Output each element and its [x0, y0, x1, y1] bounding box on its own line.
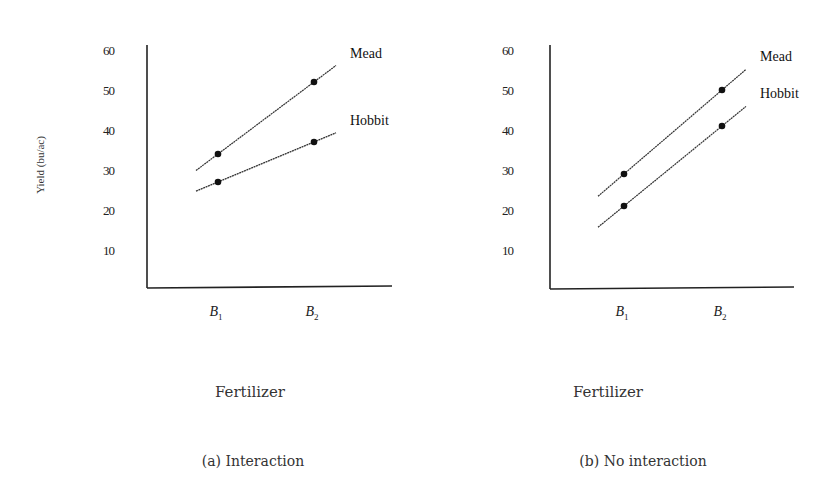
- series-mead: Mead: [598, 49, 792, 196]
- x-category-label: B1: [615, 304, 628, 322]
- y-tick-label: 50: [103, 83, 115, 98]
- y-tick-label: 50: [502, 83, 514, 98]
- y-tick-label: 20: [103, 203, 115, 218]
- y-tick-label: 20: [502, 203, 514, 218]
- series-label: Mead: [760, 49, 792, 64]
- data-point-marker: [311, 79, 318, 86]
- x-category-label: B2: [713, 304, 726, 322]
- data-point-marker: [621, 203, 628, 210]
- x-category-label: B2: [305, 304, 318, 322]
- chart-panel-interaction: 102030405060Yield (bu/ac)B1B2MeadHobbitF…: [34, 43, 392, 469]
- data-point-marker: [215, 179, 222, 186]
- y-tick-label: 30: [103, 163, 115, 178]
- chart-panel-no-interaction: 102030405060B1B2MeadHobbitFertilizer(b) …: [502, 43, 799, 469]
- x-axis: [147, 286, 392, 288]
- series-label: Hobbit: [350, 113, 389, 128]
- series-mead: Mead: [196, 46, 382, 171]
- data-point-marker: [311, 139, 318, 146]
- data-point-marker: [215, 151, 222, 158]
- figure: 102030405060Yield (bu/ac)B1B2MeadHobbitF…: [0, 0, 832, 500]
- x-axis-label: Fertilizer: [215, 383, 286, 401]
- panel-caption: (a) Interaction: [202, 453, 305, 469]
- y-tick-label: 10: [502, 243, 514, 258]
- data-point-marker: [621, 171, 628, 178]
- y-tick-label: 10: [103, 243, 115, 258]
- series-label: Mead: [350, 46, 382, 61]
- panel-caption: (b) No interaction: [579, 453, 706, 469]
- series-label: Hobbit: [760, 86, 799, 101]
- y-tick-label: 40: [103, 123, 115, 138]
- series-hobbit: Hobbit: [196, 113, 389, 191]
- y-tick-label: 40: [502, 123, 514, 138]
- x-axis-label: Fertilizer: [573, 383, 644, 401]
- y-tick-label: 60: [103, 43, 115, 58]
- x-category-label: B1: [209, 304, 222, 322]
- y-tick-label: 60: [502, 43, 514, 58]
- data-point-marker: [719, 87, 726, 94]
- y-axis-label: Yield (bu/ac): [34, 136, 47, 194]
- y-tick-label: 30: [502, 163, 514, 178]
- x-axis: [550, 287, 794, 289]
- series-hobbit: Hobbit: [598, 86, 799, 227]
- data-point-marker: [719, 123, 726, 130]
